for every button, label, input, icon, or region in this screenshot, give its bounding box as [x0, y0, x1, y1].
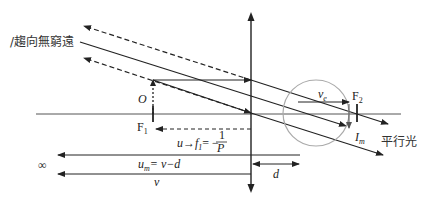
- u-formula-numerator: 1: [219, 128, 225, 142]
- v-label: v: [154, 175, 160, 189]
- ray-middle-incoming: [80, 42, 251, 96]
- u-formula-denominator: P: [216, 141, 225, 155]
- lens-bottom-arrow-icon: [248, 184, 255, 193]
- d-label: d: [273, 167, 280, 181]
- toward-infinity-label: /趨向無窮遠: [10, 34, 74, 49]
- object-label: O: [138, 92, 147, 106]
- ray-bottom-outgoing: [251, 113, 383, 155]
- image-label: Im: [354, 130, 365, 146]
- u-formula-label: u→f1= −: [177, 136, 219, 152]
- um-formula-label: um= v−d: [138, 157, 181, 173]
- ve-label: ve: [318, 87, 327, 103]
- focus1-label: F1: [137, 120, 148, 136]
- virtual-ray-top: [84, 26, 251, 80]
- ray-middle-outgoing: [251, 96, 346, 126]
- parallel-light-label: 平行光: [381, 135, 417, 149]
- lens-top-arrow-icon: [248, 12, 255, 21]
- focus2-label: F2: [352, 89, 363, 105]
- infinity-label: ∞: [38, 158, 47, 172]
- ray-object-center: [153, 80, 251, 113]
- eye-circle: [283, 80, 349, 146]
- optics-diagram: /趨向無窮遠 O F1 F2 ve Im 平行光 u→f1= − 1 P um=…: [0, 0, 432, 205]
